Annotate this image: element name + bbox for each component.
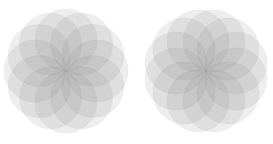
figure-canvas: [0, 0, 273, 144]
rosette-circle-group: [145, 10, 267, 132]
rosette-circle: [205, 32, 267, 94]
rosette-figure-right: [0, 0, 273, 144]
rosette-right-svg: [0, 0, 273, 144]
